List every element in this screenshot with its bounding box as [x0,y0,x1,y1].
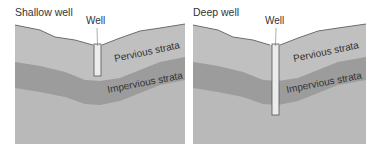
cross-section: Well Pervious strata Impervious strata [190,0,381,155]
well-leader-line [276,28,277,46]
cross-section: Well Pervious strata Impervious strata [0,0,190,155]
shallow-well-panel: Shallow well Well Pervious strata Imperv… [0,0,190,155]
deep-well-panel: Deep well Well Pervious strata Imperviou… [190,0,381,155]
well-shaft [272,44,279,115]
well-shaft [94,44,101,76]
well-leader-line [97,28,98,46]
well-label: Well [86,15,105,26]
well-label: Well [265,15,284,26]
